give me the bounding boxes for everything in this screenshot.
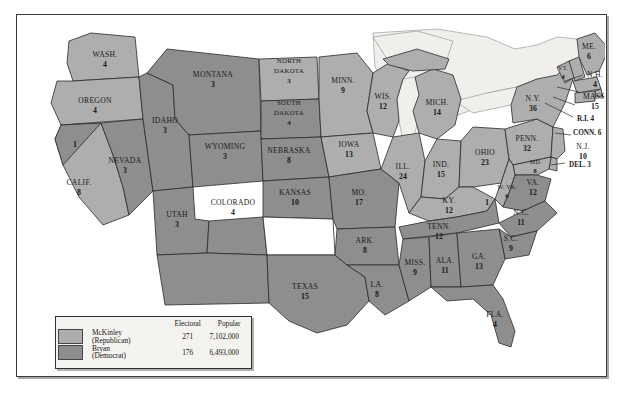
state-wyoming — [189, 131, 263, 187]
label-massachusetts-votes: 15 — [591, 102, 599, 111]
label-new-jersey-name: N.J. — [576, 142, 589, 151]
state-kansas — [263, 177, 333, 219]
legend-header-swatch — [56, 317, 90, 329]
state-newmexico-terr — [157, 253, 269, 305]
state-washington — [67, 33, 139, 81]
legend-popular-bryan: 6,493,000 — [207, 345, 251, 361]
legend-candidate-mckinley: McKinley (Republican) — [90, 329, 168, 345]
pacific-ocean — [17, 15, 65, 315]
label-connecticut: CONN. 6 — [573, 129, 602, 137]
state-nebraska — [261, 137, 329, 181]
legend-table: Electoral Popular McKinley (Republican) … — [56, 317, 251, 360]
legend-electoral-mckinley: 271 — [168, 329, 207, 345]
state-utah — [153, 187, 209, 255]
state-oregon — [51, 77, 143, 125]
state-colorado — [207, 217, 267, 255]
state-connecticut — [575, 91, 595, 103]
label-rhode-island: R.I. 4 — [577, 115, 594, 123]
legend-popular-mckinley: 7,102,000 — [207, 329, 251, 345]
state-missouri — [329, 169, 399, 229]
state-shapes-west — [51, 33, 269, 305]
legend-swatch-bryan — [58, 345, 83, 360]
legend-row-mckinley: McKinley (Republican) 271 7,102,000 — [56, 329, 251, 345]
label-colorado-votes: 4 — [231, 208, 235, 217]
legend-swatch-cell-mckinley — [56, 329, 90, 345]
state-georgia — [457, 229, 505, 287]
state-michigan — [413, 69, 461, 139]
state-arkansas — [335, 227, 399, 265]
legend-swatch-mckinley — [58, 329, 83, 344]
legend-electoral-bryan: 176 — [168, 345, 207, 361]
state-alabama — [429, 233, 461, 287]
state-rhode-island — [595, 89, 603, 97]
state-oklahoma-terr — [263, 217, 335, 255]
legend-header-popular: Popular — [207, 317, 251, 329]
state-ohio — [459, 127, 509, 187]
legend-row-bryan: Bryan (Democrat) 176 6,493,000 — [56, 345, 251, 361]
legend-header-row: Electoral Popular — [56, 317, 251, 329]
state-south-dakota — [261, 99, 321, 139]
legend-header-electoral: Electoral — [168, 317, 207, 329]
election-map-frame: 1 1 WASH. 4 OREGON 4 CALIF. 8 NEVADA 3 I… — [16, 14, 607, 377]
legend-candidate-party-bryan: (Democrat) — [92, 352, 166, 360]
state-minnesota — [319, 53, 373, 137]
legend-candidate-bryan: Bryan (Democrat) — [90, 345, 168, 361]
label-new-jersey-votes: 10 — [579, 152, 587, 161]
state-new-jersey — [551, 127, 565, 159]
legend-swatch-cell-bryan — [56, 345, 90, 361]
state-north-dakota — [259, 57, 319, 101]
label-colorado-name: COLORADO — [211, 198, 256, 207]
map-legend: Electoral Popular McKinley (Republican) … — [55, 316, 252, 369]
